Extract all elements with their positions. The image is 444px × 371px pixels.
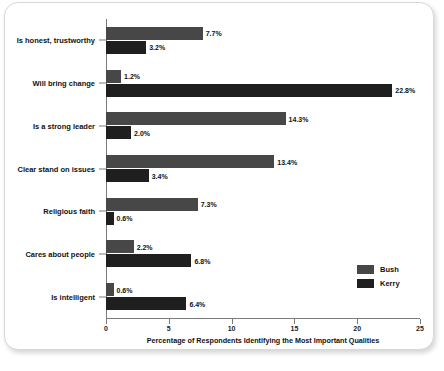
legend-label: Kerry xyxy=(380,279,400,288)
legend-item: Kerry xyxy=(357,279,400,288)
bar-value-label: 3.4% xyxy=(152,172,168,179)
bar-value-label: 2.0% xyxy=(134,129,150,136)
bar-bush xyxy=(106,155,274,168)
category-label: Cares about people xyxy=(25,249,95,258)
legend-swatch-bush xyxy=(357,265,374,274)
bar-value-label: 2.2% xyxy=(137,243,153,250)
x-tick-mark xyxy=(420,319,421,324)
bar-value-label: 7.7% xyxy=(206,30,222,37)
bar-kerry xyxy=(106,126,131,139)
bar-kerry xyxy=(106,169,149,182)
bar-bush xyxy=(106,27,203,40)
x-tick-label: 15 xyxy=(290,325,298,332)
bar-value-label: 3.2% xyxy=(149,44,165,51)
category-label: Is honest, trustworthy xyxy=(17,36,95,45)
category-label: Will bring change xyxy=(33,79,95,88)
bar-value-label: 22.8% xyxy=(395,87,415,94)
bar-kerry xyxy=(106,41,146,54)
category-label: Is a strong leader xyxy=(33,121,95,130)
bar-value-label: 13.4% xyxy=(277,158,297,165)
bar-kerry xyxy=(106,297,186,310)
x-tick-mark xyxy=(169,319,170,324)
bar-value-label: 0.6% xyxy=(117,215,133,222)
bar-kerry xyxy=(106,212,114,225)
bar-value-label: 14.3% xyxy=(289,115,309,122)
bar-bush xyxy=(106,240,134,253)
chart-legend: BushKerry xyxy=(357,265,400,293)
bar-bush xyxy=(106,70,121,83)
x-tick-label: 10 xyxy=(228,325,236,332)
category-label: Clear stand on issues xyxy=(17,164,95,173)
bar-value-label: 1.2% xyxy=(124,73,140,80)
chart-card: 0510152025 Is honest, trustworthyWill br… xyxy=(4,2,434,350)
bar-bush xyxy=(106,198,198,211)
bar-bush xyxy=(106,112,286,125)
bar-bush xyxy=(106,283,114,296)
bar-chart-plot-area: 0510152025 Is honest, trustworthyWill br… xyxy=(5,3,435,351)
category-label: Religious faith xyxy=(43,207,95,216)
bar-value-label: 6.4% xyxy=(189,300,205,307)
x-tick-mark xyxy=(294,319,295,324)
bar-value-label: 7.3% xyxy=(201,201,217,208)
x-tick-mark xyxy=(357,319,358,324)
category-label: Is intelligent xyxy=(51,292,95,301)
x-tick-label: 5 xyxy=(167,325,171,332)
bar-value-label: 0.6% xyxy=(117,286,133,293)
x-tick-mark xyxy=(232,319,233,324)
legend-item: Bush xyxy=(357,265,400,274)
bar-value-label: 6.8% xyxy=(194,257,210,264)
legend-swatch-kerry xyxy=(357,279,374,288)
x-tick-label: 20 xyxy=(353,325,361,332)
x-tick-mark xyxy=(106,319,107,324)
legend-label: Bush xyxy=(380,265,399,274)
x-tick-label: 0 xyxy=(104,325,108,332)
bar-kerry xyxy=(106,84,392,97)
x-axis-line xyxy=(106,318,420,319)
x-tick-label: 25 xyxy=(416,325,424,332)
bar-kerry xyxy=(106,254,191,267)
x-axis-title: Percentage of Respondents Identifying th… xyxy=(106,336,420,345)
